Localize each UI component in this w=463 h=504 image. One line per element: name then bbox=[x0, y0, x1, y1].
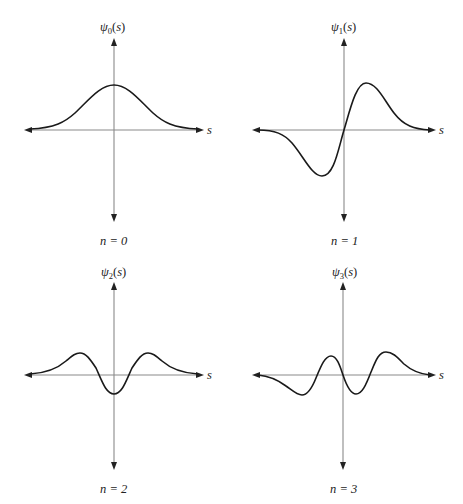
arrow-left-icon bbox=[24, 372, 32, 378]
arrow-right-icon bbox=[196, 127, 204, 133]
panel-n3: ψ3(s) s n = 3 bbox=[252, 265, 444, 496]
axis-label-s: s bbox=[207, 368, 212, 382]
panel-n0: ψ0(s) s n = 0 bbox=[24, 20, 212, 248]
arrow-up-icon bbox=[111, 38, 117, 46]
panel-title: ψ3(s) bbox=[332, 265, 357, 281]
arrow-down-icon bbox=[341, 214, 347, 222]
panel-caption: n = 0 bbox=[100, 234, 128, 248]
panel-title: ψ0(s) bbox=[100, 20, 125, 36]
axis-label-s: s bbox=[439, 368, 444, 382]
arrow-left-icon bbox=[24, 127, 32, 133]
arrow-right-icon bbox=[196, 372, 204, 378]
axis-label-s: s bbox=[207, 123, 212, 137]
panel-title: ψ1(s) bbox=[331, 20, 356, 36]
arrow-down-icon bbox=[111, 214, 117, 222]
panel-n1: ψ1(s) s n = 1 bbox=[252, 20, 444, 248]
psi3-curve bbox=[258, 352, 430, 395]
arrow-down-icon bbox=[340, 462, 346, 470]
panel-caption: n = 2 bbox=[100, 482, 127, 496]
arrow-up-icon bbox=[111, 282, 117, 290]
panel-caption: n = 3 bbox=[330, 482, 357, 496]
panel-caption: n = 1 bbox=[331, 234, 358, 248]
hermite-wavefunction-figure: ψ0(s) s n = 0 ψ1(s) s n = 1 ψ2(s) s n = … bbox=[0, 0, 463, 504]
axis-label-s: s bbox=[439, 123, 444, 137]
panel-n2: ψ2(s) s n = 2 bbox=[24, 265, 212, 496]
arrow-up-icon bbox=[340, 282, 346, 290]
panel-title: ψ2(s) bbox=[101, 265, 126, 281]
arrow-up-icon bbox=[341, 38, 347, 46]
arrow-down-icon bbox=[111, 462, 117, 470]
